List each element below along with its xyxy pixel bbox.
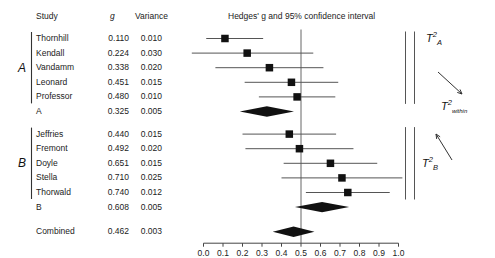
annotation-base: T — [422, 157, 429, 169]
group-label-A: A — [17, 61, 26, 75]
arrow-tau2b-to-within-head-b — [436, 134, 437, 139]
point-marker-10 — [344, 189, 352, 197]
x-tick-label-7: 0.7 — [331, 248, 349, 258]
annotation-base: T — [426, 32, 433, 44]
summary-diamond-5 — [240, 106, 294, 116]
point-marker-8 — [327, 160, 335, 168]
annotation-tau2-b: T2B — [422, 155, 438, 172]
x-tick-label-9: 0.9 — [370, 248, 388, 258]
arrow-tau2a-to-within — [438, 72, 462, 94]
annotation-tau2-a: T2A — [426, 30, 442, 47]
point-marker-0 — [221, 35, 229, 43]
x-tick-label-0: 0.0 — [195, 248, 213, 258]
x-tick-label-3: 0.3 — [253, 248, 271, 258]
annotation-tau2-within: T2within — [441, 98, 467, 114]
x-tick-label-10: 1.0 — [390, 248, 408, 258]
x-tick-label-5: 0.5 — [292, 248, 310, 258]
arrow-tau2b-to-within — [436, 134, 452, 160]
annotation-subscript: A — [437, 38, 442, 47]
summary-diamond-12 — [273, 227, 315, 237]
group-label-B: B — [18, 156, 26, 170]
point-marker-6 — [286, 130, 294, 138]
summary-diamond-11 — [295, 202, 349, 212]
annotation-subscript: B — [433, 163, 438, 172]
annotation-superscript: 2 — [448, 98, 452, 107]
x-tick-label-4: 0.4 — [273, 248, 291, 258]
annotation-subscript: within — [452, 108, 467, 114]
x-tick-label-8: 0.8 — [351, 248, 369, 258]
x-tick-label-6: 0.6 — [312, 248, 330, 258]
point-marker-9 — [338, 174, 346, 182]
point-marker-1 — [243, 49, 251, 57]
annotation-base: T — [441, 100, 448, 112]
point-marker-3 — [288, 79, 296, 87]
point-marker-4 — [293, 93, 301, 101]
x-tick-label-2: 0.2 — [234, 248, 252, 258]
point-marker-7 — [296, 145, 304, 153]
x-tick-label-1: 0.1 — [214, 248, 232, 258]
point-marker-2 — [266, 64, 274, 71]
